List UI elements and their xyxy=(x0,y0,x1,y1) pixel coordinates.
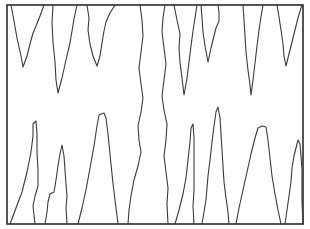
line-art-diagram xyxy=(0,0,310,229)
frame-border xyxy=(7,5,303,224)
figure-root xyxy=(0,0,310,229)
